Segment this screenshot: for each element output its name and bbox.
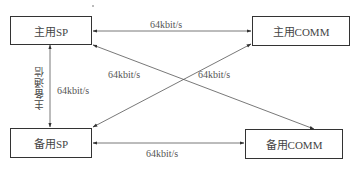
- node-label: 主用SP: [34, 23, 68, 39]
- node-backup-sp: 备用SP: [10, 128, 92, 158]
- node-main-comm: 主用COMM: [252, 16, 350, 46]
- link-label-top: 64kbit/s: [150, 19, 182, 30]
- node-label: 备用SP: [34, 135, 68, 151]
- node-main-sp: 主用SP: [10, 16, 92, 45]
- link-label-vertical: 64kbit/s: [57, 85, 89, 96]
- node-backup-comm: 备用COMM: [245, 129, 343, 159]
- link-label-bottom: 64kbit/s: [146, 148, 178, 159]
- link-label-diagonal-right: 64kbit/s: [198, 69, 230, 80]
- link-side-label-vertical: 主备通信: [32, 66, 47, 110]
- link-label-diagonal-left: 64kbit/s: [108, 69, 140, 80]
- link-backup-sp-main-comm: [93, 44, 251, 127]
- node-label: 备用COMM: [266, 136, 323, 152]
- link-main-sp-backup-comm: [93, 45, 314, 129]
- node-label: 主用COMM: [273, 23, 330, 39]
